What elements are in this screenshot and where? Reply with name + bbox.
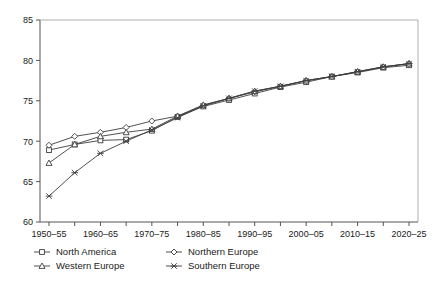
legend-label: Southern Europe: [188, 260, 260, 271]
x-tick-label: 1970–75: [134, 229, 169, 239]
y-tick-label: 80: [23, 56, 33, 66]
line-chart: 606570758085 1950–551960–651970–751980–8…: [0, 0, 442, 284]
legend-label: North America: [56, 246, 117, 257]
legend-item-northern-europe[interactable]: Northern Europe: [166, 246, 258, 257]
y-axis: 606570758085: [23, 15, 40, 227]
legend-item-southern-europe[interactable]: Southern Europe: [166, 260, 260, 271]
y-tick-label: 70: [23, 137, 33, 147]
y-tick-label: 65: [23, 177, 33, 187]
chart-legend: North AmericaNorthern EuropeWestern Euro…: [34, 246, 260, 271]
x-tick-label: 1960–65: [83, 229, 118, 239]
star-marker: [171, 263, 178, 269]
series-line: [49, 64, 409, 197]
triangle-marker: [46, 160, 52, 165]
series-line: [49, 64, 409, 163]
x-tick-label: 2010–15: [340, 229, 375, 239]
square-marker: [40, 250, 45, 255]
legend-item-western-europe[interactable]: Western Europe: [34, 260, 124, 271]
x-tick-label: 2020–25: [391, 229, 426, 239]
series-western-europe: [46, 61, 412, 166]
star-marker: [71, 170, 78, 176]
plot-frame: [40, 20, 418, 222]
legend-label: Northern Europe: [188, 246, 258, 257]
plot-border: [40, 20, 418, 222]
star-marker: [46, 193, 53, 199]
series-container: [46, 61, 413, 199]
x-tick-label: 1950–55: [31, 229, 66, 239]
x-tick-label: 1990–95: [237, 229, 272, 239]
x-tick-label: 1980–85: [186, 229, 221, 239]
y-tick-label: 60: [23, 217, 33, 227]
x-tick-label: 2000–05: [289, 229, 324, 239]
diamond-marker: [171, 249, 177, 255]
legend-label: Western Europe: [56, 260, 124, 271]
chart-root: 606570758085 1950–551960–651970–751980–8…: [0, 0, 442, 284]
y-tick-label: 75: [23, 96, 33, 106]
diamond-marker: [72, 133, 78, 139]
y-tick-label: 85: [23, 15, 33, 25]
star-marker: [97, 151, 104, 157]
diamond-marker: [149, 118, 155, 124]
legend-item-north-america[interactable]: North America: [34, 246, 117, 257]
x-axis: 1950–551960–651970–751980–851990–952000–…: [31, 222, 426, 239]
